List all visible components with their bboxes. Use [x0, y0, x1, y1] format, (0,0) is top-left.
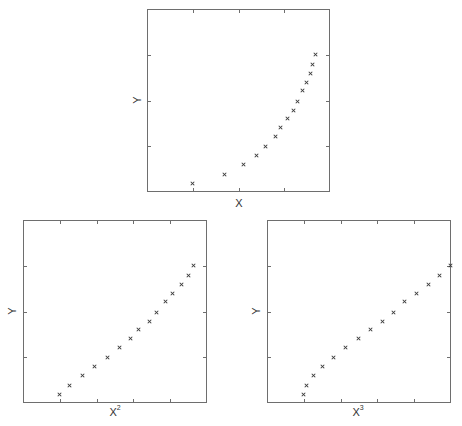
data-point-x-marker-icon: [80, 374, 84, 378]
data-point-x-marker-icon: [105, 355, 109, 359]
y-axis-tick: [447, 357, 451, 358]
x-axis-tick: [341, 220, 342, 224]
x-axis-tick: [414, 220, 415, 224]
x-axis-tick: [377, 220, 378, 224]
plot-frame: [267, 220, 451, 403]
data-point-x-marker-icon: [192, 264, 196, 268]
y-axis-tick: [147, 101, 151, 102]
y-axis-tick: [23, 357, 27, 358]
plot-frame: [23, 220, 207, 403]
x-axis-tick: [97, 399, 98, 403]
y-axis-tick: [23, 312, 27, 313]
y-axis-tick: [267, 312, 271, 313]
x-axis-tick: [304, 399, 305, 403]
y-axis-tick: [203, 312, 207, 313]
data-point-x-marker-icon: [264, 144, 268, 148]
data-point-x-marker-icon: [279, 126, 283, 130]
data-point-x-marker-icon: [311, 62, 315, 66]
y-axis-tick: [203, 266, 207, 267]
x-axis-tick: [60, 399, 61, 403]
y-axis-tick: [147, 55, 151, 56]
data-point-x-marker-icon: [448, 264, 452, 268]
data-point-x-marker-icon: [58, 392, 62, 396]
y-axis-label: Y: [250, 307, 262, 314]
plot-frame: [147, 9, 330, 192]
data-point-x-marker-icon: [356, 337, 360, 341]
x-axis-label-text: X: [235, 197, 242, 209]
data-point-x-marker-icon: [426, 282, 430, 286]
y-axis-tick: [326, 101, 330, 102]
data-point-x-marker-icon: [312, 374, 316, 378]
x-axis-tick: [170, 399, 171, 403]
x-axis-tick: [239, 9, 240, 13]
data-point-x-marker-icon: [321, 365, 325, 369]
data-point-x-marker-icon: [305, 383, 309, 387]
data-point-x-marker-icon: [191, 181, 195, 185]
data-point-x-marker-icon: [391, 310, 395, 314]
data-point-x-marker-icon: [254, 154, 258, 158]
x-axis-label-exponent: 2: [117, 404, 121, 411]
data-point-x-marker-icon: [128, 337, 132, 341]
x-axis-label: X: [235, 197, 242, 209]
y-axis-tick: [23, 266, 27, 267]
data-point-x-marker-icon: [437, 273, 441, 277]
x-axis-tick: [377, 399, 378, 403]
x-axis-tick: [414, 399, 415, 403]
data-point-x-marker-icon: [402, 300, 406, 304]
x-axis-label: X3: [352, 406, 363, 418]
y-axis-tick: [267, 357, 271, 358]
y-axis-tick: [447, 312, 451, 313]
data-point-x-marker-icon: [302, 392, 306, 396]
data-point-x-marker-icon: [93, 365, 97, 369]
x-axis-tick: [284, 9, 285, 13]
y-axis-tick: [203, 357, 207, 358]
x-axis-tick: [97, 220, 98, 224]
data-point-x-marker-icon: [314, 53, 318, 57]
x-axis-tick: [133, 220, 134, 224]
data-point-x-marker-icon: [304, 80, 308, 84]
y-axis-tick: [147, 146, 151, 147]
x-axis-tick: [133, 399, 134, 403]
data-point-x-marker-icon: [344, 346, 348, 350]
data-point-x-marker-icon: [273, 135, 277, 139]
data-point-x-marker-icon: [308, 71, 312, 75]
data-point-x-marker-icon: [117, 346, 121, 350]
data-point-x-marker-icon: [186, 273, 190, 277]
data-point-x-marker-icon: [241, 163, 245, 167]
data-point-x-marker-icon: [291, 108, 295, 112]
data-point-x-marker-icon: [171, 291, 175, 295]
x-axis-tick: [341, 399, 342, 403]
data-point-x-marker-icon: [368, 328, 372, 332]
data-point-x-marker-icon: [332, 355, 336, 359]
data-point-x-marker-icon: [380, 319, 384, 323]
data-point-x-marker-icon: [67, 383, 71, 387]
data-point-x-marker-icon: [179, 282, 183, 286]
y-axis-tick: [326, 55, 330, 56]
data-point-x-marker-icon: [286, 117, 290, 121]
x-axis-tick: [239, 188, 240, 192]
x-axis-tick: [193, 188, 194, 192]
data-point-x-marker-icon: [155, 310, 159, 314]
x-axis-tick: [60, 220, 61, 224]
y-axis-tick: [267, 266, 271, 267]
x-axis-label: X2: [109, 406, 120, 418]
x-axis-tick: [284, 188, 285, 192]
data-point-x-marker-icon: [163, 300, 167, 304]
data-point-x-marker-icon: [137, 328, 141, 332]
data-point-x-marker-icon: [222, 172, 226, 176]
data-point-x-marker-icon: [147, 319, 151, 323]
data-point-x-marker-icon: [296, 99, 300, 103]
x-axis-tick: [170, 220, 171, 224]
y-axis-tick: [326, 146, 330, 147]
y-axis-label: Y: [6, 307, 18, 314]
x-axis-tick: [193, 9, 194, 13]
data-point-x-marker-icon: [300, 89, 304, 93]
data-point-x-marker-icon: [414, 291, 418, 295]
x-axis-label-exponent: 3: [360, 404, 364, 411]
x-axis-tick: [304, 220, 305, 224]
y-axis-label: Y: [131, 96, 143, 103]
